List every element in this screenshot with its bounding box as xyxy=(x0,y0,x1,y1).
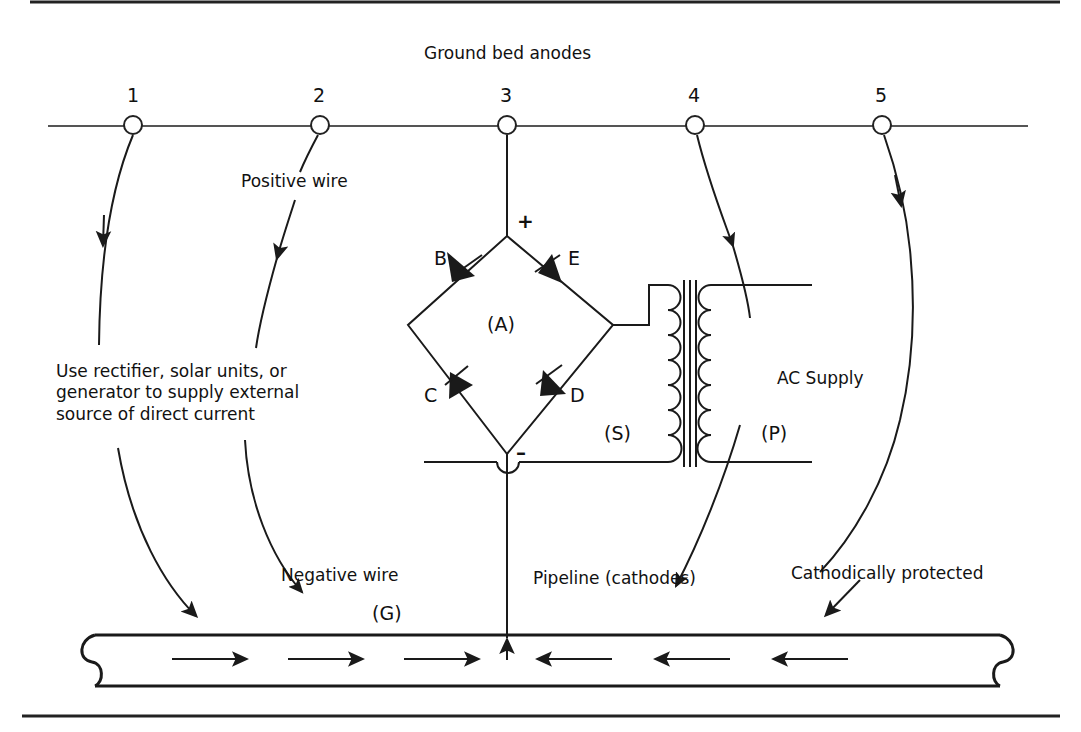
anode-5-wire-lower xyxy=(820,420,900,572)
diode-e-label: E xyxy=(568,247,580,271)
anode-5-wire-upper xyxy=(884,135,910,250)
anode-1-wire-arrowhead xyxy=(103,215,104,245)
anode-label-5: 5 xyxy=(875,84,887,108)
anode-1-wire-lower xyxy=(118,448,196,616)
pipeline-right-cap xyxy=(994,635,1014,686)
negative-wire-label: Negative wire xyxy=(281,565,398,586)
anode-circle-1[interactable] xyxy=(124,116,142,134)
ac-supply-label: AC Supply xyxy=(777,368,864,389)
diode-d-label: D xyxy=(570,384,585,408)
anode-4-wire-upper xyxy=(697,135,733,246)
diode-b-triangle xyxy=(447,252,475,282)
anode-4-wire-lower xyxy=(676,425,740,586)
rectifier-plus-sign: + xyxy=(517,209,534,234)
transformer-primary-coil xyxy=(698,285,712,462)
anode-label-1: 1 xyxy=(127,84,139,108)
transformer-secondary-label: (S) xyxy=(604,422,631,446)
anode-2-wire-mid xyxy=(277,200,295,258)
page-title: Ground bed anodes xyxy=(424,43,591,64)
source-note-label: Use rectifier, solar units, or generator… xyxy=(56,361,299,425)
cathodically-protected-label: Cathodically protected xyxy=(791,563,984,584)
rectifier-minus-sign: – xyxy=(516,440,526,465)
rectifier-center-label: (A) xyxy=(487,313,515,337)
diode-b-label: B xyxy=(434,247,447,271)
diode-c-label: C xyxy=(424,384,437,408)
transformer-primary-label: (P) xyxy=(761,422,787,446)
anode-label-3: 3 xyxy=(500,84,512,108)
anode-5-wire-mid xyxy=(900,250,913,420)
anode-4-wire-mid xyxy=(733,246,750,318)
bridge-to-secondary-top xyxy=(613,285,668,325)
ground-label: (G) xyxy=(372,602,402,626)
anode-circle-3[interactable] xyxy=(498,116,516,134)
positive-wire-label: Positive wire xyxy=(241,171,348,192)
transformer-secondary-coil xyxy=(668,285,682,462)
anode-label-2: 2 xyxy=(313,84,325,108)
diagram-canvas: Ground bed anodes 1 2 3 4 5 Positive wir… xyxy=(0,0,1081,732)
anode-circle-2[interactable] xyxy=(311,116,329,134)
anode-circle-5[interactable] xyxy=(873,116,891,134)
pipeline-left-cap xyxy=(82,635,102,686)
anode-2-wire-upper xyxy=(300,135,318,172)
cathodically-protected-arrow xyxy=(826,580,860,615)
anode-label-4: 4 xyxy=(688,84,700,108)
diode-d-triangle xyxy=(540,370,566,396)
pipeline-label: Pipeline (cathodes) xyxy=(533,568,696,589)
anode-2-wire-mid2 xyxy=(256,258,277,348)
anode-circle-4[interactable] xyxy=(686,116,704,134)
